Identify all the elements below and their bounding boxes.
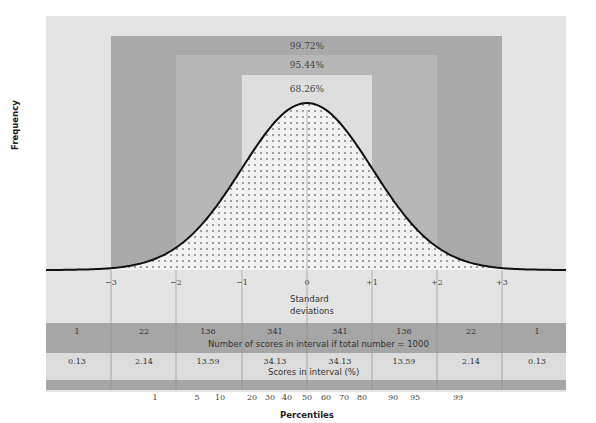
count-cell: 341 bbox=[310, 327, 370, 336]
pct-caption: Scores in interval (%) bbox=[268, 367, 359, 377]
pct-cell: 34.13 bbox=[245, 357, 305, 366]
sigma-tick-minus2: −2 bbox=[161, 278, 191, 287]
count-cell: 136 bbox=[374, 327, 434, 336]
count-caption: Number of scores in interval if total nu… bbox=[208, 339, 429, 349]
sigma-tick-0: 0 bbox=[292, 278, 322, 287]
pct-cell: 13.59 bbox=[178, 357, 238, 366]
pct-cell: 0.13 bbox=[47, 357, 107, 366]
sigma-tick-minus3: −3 bbox=[96, 278, 126, 287]
percentile-tick: 90 bbox=[381, 393, 405, 402]
std-dev-label-1: Standard bbox=[290, 294, 329, 304]
percentile-tick: 10 bbox=[208, 393, 232, 402]
count-cell: 22 bbox=[114, 327, 174, 336]
sigma-tick-plus2: +2 bbox=[422, 278, 452, 287]
pct-cell: 0.13 bbox=[507, 357, 567, 366]
pct-cell: 13.59 bbox=[374, 357, 434, 366]
count-cell: 1 bbox=[507, 327, 567, 336]
bottom-strip bbox=[46, 380, 566, 390]
count-cell: 1 bbox=[47, 327, 107, 336]
percentile-tick: 99 bbox=[446, 393, 470, 402]
count-cell: 136 bbox=[178, 327, 238, 336]
std-dev-label-2: deviations bbox=[290, 306, 334, 316]
count-cell: 22 bbox=[441, 327, 501, 336]
count-cell: 341 bbox=[245, 327, 305, 336]
x-axis-label: Percentiles bbox=[267, 410, 347, 420]
pct-cell: 2.14 bbox=[441, 357, 501, 366]
pct-cell: 34.13 bbox=[310, 357, 370, 366]
sigma-tick-minus1: −1 bbox=[227, 278, 257, 287]
y-axis-label: Frequency bbox=[10, 100, 20, 150]
percentile-tick: 95 bbox=[403, 393, 427, 402]
percentile-tick: 1 bbox=[143, 393, 167, 402]
pct-cell: 2.14 bbox=[114, 357, 174, 366]
percentile-tick: 5 bbox=[185, 393, 209, 402]
sigma-tick-plus1: +1 bbox=[357, 278, 387, 287]
sigma-tick-plus3: +3 bbox=[487, 278, 517, 287]
percentile-tick: 80 bbox=[350, 393, 374, 402]
